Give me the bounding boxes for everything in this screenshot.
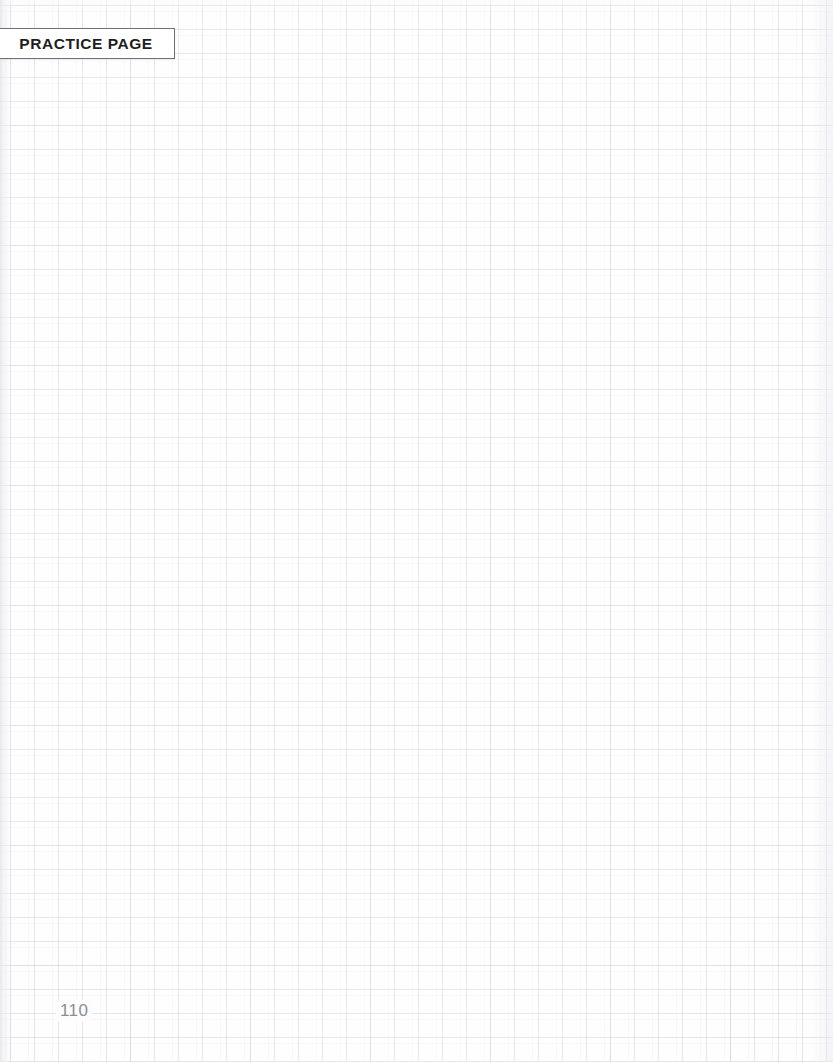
practice-page: PRACTICE PAGE 110: [0, 0, 833, 1062]
grid-accent-lines: [0, 0, 833, 1062]
practice-page-tab-label: PRACTICE PAGE: [7, 35, 152, 53]
grid-major-lines: [0, 0, 833, 1062]
grid-minor-lines: [0, 0, 833, 1062]
paper-vignette: [0, 0, 833, 1062]
practice-page-tab: PRACTICE PAGE: [0, 28, 175, 59]
page-number: 110: [56, 1000, 92, 1022]
page-binding-edge: [5, 0, 8, 1062]
